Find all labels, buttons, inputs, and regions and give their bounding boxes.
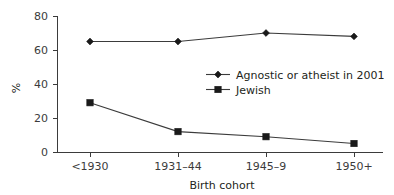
legend-diamond-marker-icon <box>215 71 222 78</box>
x-tick-label-2: 1945–9 <box>246 160 287 173</box>
y-axis-title: % <box>10 83 23 93</box>
x-axis-title: Birth cohort <box>189 179 255 192</box>
x-tick-label-1: 1931–44 <box>154 160 202 173</box>
data-point-square <box>351 140 357 146</box>
y-tick-label-0: 0 <box>41 146 48 159</box>
legend-label-agnostic: Agnostic or atheist in 2001 <box>236 69 385 82</box>
chart-legend: Agnostic or atheist in 2001 Jewish <box>206 69 385 97</box>
data-point-diamond <box>351 33 358 40</box>
x-tick-label-0: <1930 <box>71 160 108 173</box>
chart-canvas: 80 60 40 20 0 % <1930 1931–44 1945–9 195… <box>0 0 394 195</box>
series-line-0 <box>90 33 354 42</box>
data-point-diamond <box>263 30 270 37</box>
legend-label-jewish: Jewish <box>235 84 271 97</box>
data-point-diamond <box>175 38 182 45</box>
data-point-square <box>175 128 181 134</box>
data-point-diamond <box>87 38 94 45</box>
series-line-1 <box>90 103 354 144</box>
x-tick-label-3: 1950+ <box>335 160 372 173</box>
data-point-square <box>87 100 93 106</box>
data-point-square <box>263 134 269 140</box>
y-tick-label-20: 20 <box>34 112 48 125</box>
line-chart: 80 60 40 20 0 % <1930 1931–44 1945–9 195… <box>0 0 394 195</box>
legend-square-marker-icon <box>215 86 221 92</box>
series-layer <box>87 30 358 147</box>
series-jewish <box>87 100 357 147</box>
y-tick-label-60: 60 <box>34 44 48 57</box>
y-tick-label-40: 40 <box>34 78 48 91</box>
series-agnostic <box>87 30 358 45</box>
y-tick-label-80: 80 <box>34 10 48 23</box>
